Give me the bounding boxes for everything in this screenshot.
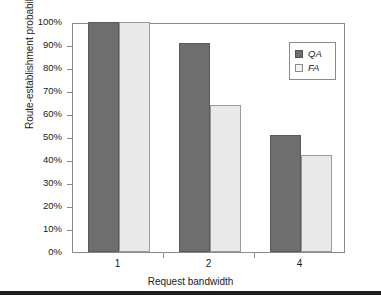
y-axis-tick-label: 70% xyxy=(43,85,62,96)
legend-label: QA xyxy=(308,49,322,59)
y-axis-tick-label: 30% xyxy=(43,177,62,188)
y-axis-tick-label: 50% xyxy=(43,131,62,142)
bar-fa-4 xyxy=(301,155,332,252)
y-axis-tick-label: 100% xyxy=(38,16,62,27)
bar-qa-1 xyxy=(88,22,119,252)
y-axis-tick-label: 10% xyxy=(43,223,62,234)
y-axis-tick-label: 40% xyxy=(43,154,62,165)
bar-qa-2 xyxy=(179,43,210,252)
x-axis-separator-tick xyxy=(163,253,164,258)
bottom-rule-divider xyxy=(0,291,381,295)
y-axis-tick-label: 0% xyxy=(48,246,62,257)
legend-label: FA xyxy=(308,63,319,73)
legend-swatch-icon xyxy=(295,64,303,72)
y-axis-tick-label: 60% xyxy=(43,108,62,119)
legend-item-qa[interactable]: QA xyxy=(295,47,330,61)
bar-chart-figure: Route-establishment probability 0%10%20%… xyxy=(0,0,381,300)
bar-qa-4 xyxy=(270,135,301,252)
x-axis-category-label: 1 xyxy=(88,258,148,269)
x-axis-separator-tick xyxy=(254,253,255,258)
y-axis-tick-label: 20% xyxy=(43,200,62,211)
bar-fa-1 xyxy=(119,22,150,252)
x-axis-category-label: 2 xyxy=(179,258,239,269)
y-axis-tick-label: 90% xyxy=(43,39,62,50)
y-axis-tick-label: 80% xyxy=(43,62,62,73)
legend-item-fa[interactable]: FA xyxy=(295,61,330,75)
x-axis-category-label: 4 xyxy=(270,258,330,269)
bar-fa-2 xyxy=(210,105,241,252)
x-axis-title: Request bandwidth xyxy=(0,276,381,287)
chart-legend: QAFA xyxy=(289,42,336,80)
legend-swatch-icon xyxy=(295,50,303,58)
